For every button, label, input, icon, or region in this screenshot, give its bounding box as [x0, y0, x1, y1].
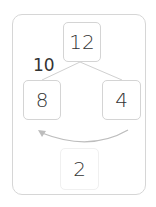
curved-arrow-icon [42, 130, 128, 142]
right-node: 4 [102, 80, 141, 120]
edge-label: 10 [33, 55, 55, 75]
bottom-node: 2 [60, 148, 99, 190]
left-node: 8 [23, 80, 61, 120]
top-node: 12 [63, 22, 101, 62]
